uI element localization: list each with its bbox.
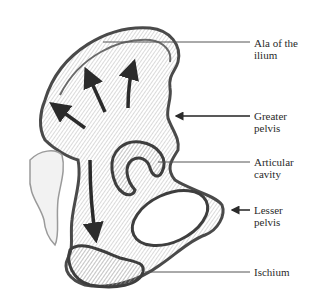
sacrum-shape [30, 151, 64, 245]
label-ala-of-ilium: Ala of the ilium [254, 37, 298, 61]
label-ischium: Ischium [254, 266, 289, 278]
label-lesser-pelvis: Lesser pelvis [254, 204, 283, 228]
label-greater-pelvis: Greater pelvis [254, 110, 287, 134]
label-articular-cavity: Articular cavity [254, 156, 294, 180]
